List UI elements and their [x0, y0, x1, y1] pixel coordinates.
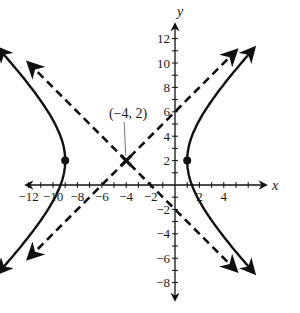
center-annotation: (−4, 2): [109, 106, 148, 122]
x-tick-label: −4: [119, 189, 133, 204]
y-tick-label: 12: [157, 31, 170, 46]
x-tick-label: 4: [221, 189, 228, 204]
y-tick-label: −6: [156, 251, 170, 266]
hyperbola-plot: −12−10−8−6−4−22412108642−2−4−6−8xy(−4, 2…: [0, 0, 300, 313]
labels: −12−10−8−6−4−22412108642−2−4−6−8xy(−4, 2…: [18, 4, 279, 290]
x-tick-label: 2: [196, 189, 203, 204]
left-vertex-point: [61, 157, 69, 165]
y-axis-label: y: [175, 4, 184, 19]
hyperbola-left-branch: [0, 48, 65, 272]
annotation-leader-line: [124, 122, 126, 156]
x-tick-label: −6: [95, 189, 109, 204]
y-tick-label: −4: [156, 226, 170, 241]
x-axis-label: x: [271, 178, 279, 193]
asymptote-2: [29, 63, 236, 270]
y-tick-label: −2: [156, 202, 170, 217]
y-tick-label: 2: [164, 153, 171, 168]
y-tick-label: 6: [164, 104, 171, 119]
center-x-marker: [121, 156, 131, 166]
x-tick-label: −8: [70, 189, 84, 204]
asymptote-1: [29, 51, 236, 258]
x-tick-label: −10: [43, 189, 63, 204]
curves: [0, 48, 254, 272]
y-tick-label: −8: [156, 275, 170, 290]
x-tick-label: −12: [18, 189, 38, 204]
y-tick-label: 4: [164, 129, 171, 144]
hyperbola-right-branch: [187, 48, 254, 272]
y-tick-label: 10: [157, 56, 170, 71]
right-vertex-point: [183, 157, 191, 165]
y-tick-label: 8: [164, 80, 171, 95]
